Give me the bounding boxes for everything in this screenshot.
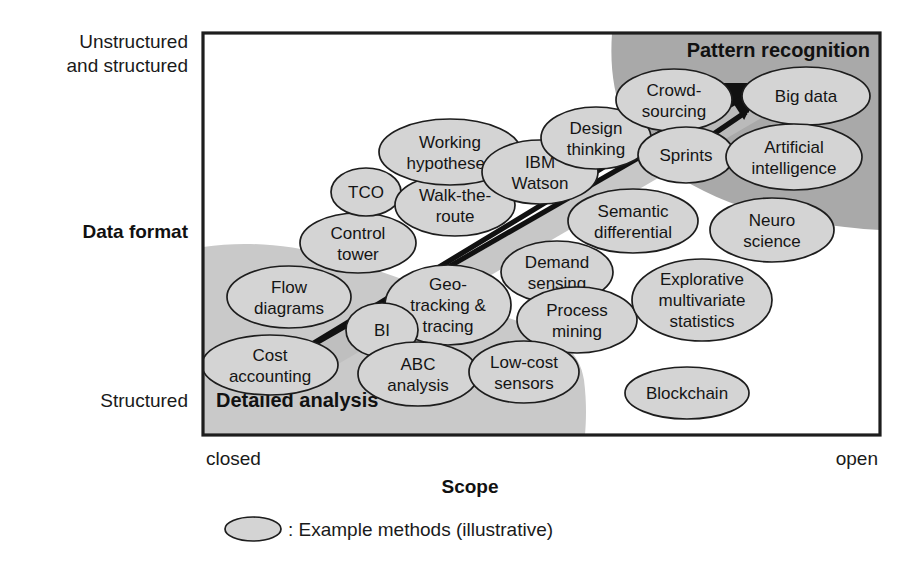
method-node-sprints[interactable]: Sprints	[638, 127, 734, 183]
y-axis-bottom-label: Structured	[100, 390, 188, 411]
method-node-label: multivariate	[659, 291, 746, 310]
method-node-label: sourcing	[642, 102, 706, 121]
method-node-label: Blockchain	[646, 384, 728, 403]
method-node-label: accounting	[229, 367, 311, 386]
method-node-label: TCO	[348, 183, 384, 202]
method-node-ellipse	[202, 335, 338, 395]
method-node-label: Demand	[525, 253, 589, 272]
method-node-label: Sprints	[660, 146, 713, 165]
method-node-label: statistics	[669, 312, 734, 331]
method-node-low-cost-sensors[interactable]: Low-costsensors	[469, 341, 579, 403]
method-node-label: hypotheses	[407, 154, 494, 173]
x-axis-right-label: open	[836, 448, 878, 469]
y-axis-title: Data format	[82, 221, 188, 242]
method-node-ellipse	[616, 69, 732, 131]
x-axis-title: Scope	[441, 476, 498, 497]
method-node-label: Working	[419, 133, 481, 152]
x-axis-left-label: closed	[206, 448, 261, 469]
method-node-label: differential	[594, 223, 672, 242]
method-node-label: Artificial	[764, 138, 824, 157]
method-node-ellipse	[710, 198, 834, 262]
legend-label: : Example methods (illustrative)	[288, 519, 553, 540]
y-axis-labels: Unstructured and structured Data format …	[67, 31, 189, 411]
zone-label-pattern-recognition: Pattern recognition	[687, 39, 870, 61]
method-node-label: Low-cost	[490, 353, 558, 372]
method-node-control-tower[interactable]: Controltower	[300, 213, 416, 273]
method-node-label: science	[743, 232, 801, 251]
plot-area: Pattern recognition Detailed analysis Co…	[202, 33, 880, 435]
method-node-flow-diagrams[interactable]: Flowdiagrams	[227, 266, 351, 328]
method-node-blockchain[interactable]: Blockchain	[625, 367, 749, 419]
method-node-label: Big data	[775, 87, 838, 106]
method-node-ellipse	[469, 341, 579, 403]
method-node-label: sensors	[494, 374, 554, 393]
method-node-label: mining	[552, 322, 602, 341]
method-node-label: Explorative	[660, 270, 744, 289]
method-node-label: tracking &	[410, 296, 486, 315]
method-node-label: tower	[337, 245, 379, 264]
method-node-label: Watson	[511, 174, 568, 193]
method-node-label: Walk-the-	[419, 186, 491, 205]
y-axis-top-label-line1: Unstructured	[79, 31, 188, 52]
method-node-label: route	[436, 207, 475, 226]
method-node-crowd-sourcing[interactable]: Crowd-sourcing	[616, 69, 732, 131]
method-node-label: Flow	[271, 278, 308, 297]
method-node-label: Control	[331, 224, 386, 243]
method-node-label: Neuro	[749, 211, 795, 230]
method-node-label: BI	[374, 321, 390, 340]
legend-ellipse-swatch	[225, 517, 281, 541]
method-node-ellipse	[300, 213, 416, 273]
method-node-explorative-stats[interactable]: Explorativemultivariatestatistics	[632, 259, 772, 341]
method-node-abc-analysis[interactable]: ABCanalysis	[358, 342, 478, 406]
method-node-big-data[interactable]: Big data	[742, 67, 870, 125]
method-node-label: thinking	[567, 140, 626, 159]
method-node-ellipse	[726, 124, 862, 190]
method-node-label: diagrams	[254, 299, 324, 318]
y-axis-top-label-line2: and structured	[67, 55, 188, 76]
method-node-artificial-intelligence[interactable]: Artificialintelligence	[726, 124, 862, 190]
method-node-label: Process	[546, 301, 607, 320]
method-node-ellipse	[568, 189, 698, 253]
method-node-label: Design	[570, 119, 623, 138]
method-node-label: Cost	[253, 346, 288, 365]
method-node-label: intelligence	[751, 159, 836, 178]
method-node-ellipse	[227, 266, 351, 328]
method-node-semantic-differential[interactable]: Semanticdifferential	[568, 189, 698, 253]
method-node-label: ABC	[401, 355, 436, 374]
method-node-label: analysis	[387, 376, 448, 395]
method-node-tco[interactable]: TCO	[331, 168, 401, 216]
legend: : Example methods (illustrative)	[225, 517, 553, 541]
positioning-matrix-diagram: Unstructured and structured Data format …	[0, 0, 915, 574]
method-node-cost-accounting[interactable]: Costaccounting	[202, 335, 338, 395]
method-node-label: tracing	[422, 317, 473, 336]
figure-canvas: Unstructured and structured Data format …	[0, 0, 915, 574]
method-node-label: Geo-	[429, 275, 467, 294]
method-node-neuro-science[interactable]: Neuroscience	[710, 198, 834, 262]
method-node-label: Crowd-	[647, 81, 702, 100]
x-axis-labels: closed open Scope	[206, 448, 878, 497]
method-node-ellipse	[358, 342, 478, 406]
method-node-label: Semantic	[598, 202, 669, 221]
